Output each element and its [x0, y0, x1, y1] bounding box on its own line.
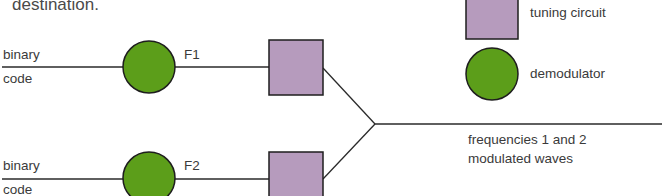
legend-demodulator-icon — [466, 48, 518, 100]
input-2-label-line2: code — [3, 181, 32, 196]
output-label-line2: modulated waves — [468, 150, 573, 167]
input-1-label-line2: code — [3, 70, 32, 87]
caption-text: destination. — [12, 0, 99, 15]
tuning-circuit-2-icon — [269, 152, 323, 196]
branch-line-2 — [323, 124, 375, 179]
input-1-label-line1: binary — [3, 46, 40, 63]
demodulator-1-icon — [123, 41, 175, 93]
frequency-1-label: F1 — [184, 46, 200, 63]
input-2-label-line1: binary — [3, 157, 40, 174]
tuning-circuit-1-icon — [269, 40, 323, 95]
output-label-line1: frequencies 1 and 2 — [468, 131, 587, 148]
frequency-2-label: F2 — [184, 157, 200, 174]
demodulator-2-icon — [123, 152, 175, 196]
branch-line-1 — [323, 68, 375, 124]
legend-tuning-circuit-label: tuning circuit — [530, 4, 606, 21]
legend-tuning-circuit-icon — [466, 0, 518, 39]
legend-demodulator-label: demodulator — [530, 65, 605, 82]
